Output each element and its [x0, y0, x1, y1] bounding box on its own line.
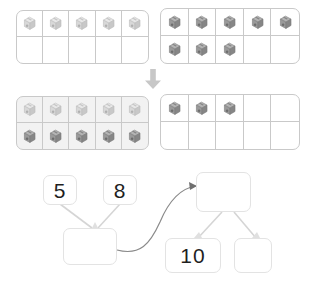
connector-8-to-sum — [98, 204, 120, 228]
ten-frame-cell-empty[interactable] — [96, 37, 122, 63]
ten-frame-cell-filled[interactable] — [189, 9, 217, 36]
ten-frame-cell-filled[interactable] — [69, 123, 95, 149]
ten-frame-cell-filled[interactable] — [122, 123, 148, 149]
ten-frame-cell-empty[interactable] — [244, 122, 272, 149]
ten-frame-cell-filled[interactable] — [43, 11, 69, 37]
number-box-part-remainder[interactable] — [234, 238, 272, 273]
connector-total-to-ten — [198, 212, 222, 238]
unit-cube-icon — [21, 101, 38, 118]
ten-frame-cell-empty[interactable] — [271, 36, 299, 63]
ten-frame-second-addend[interactable] — [160, 8, 300, 64]
unit-cube-icon — [221, 14, 238, 31]
unit-cube-icon — [166, 100, 183, 117]
unit-cube-icon — [73, 15, 90, 32]
ten-frame-cell-empty[interactable] — [69, 37, 95, 63]
ten-frame-cell-filled[interactable] — [96, 123, 122, 149]
ten-frame-cell-filled[interactable] — [17, 11, 43, 37]
down-arrow-icon — [141, 68, 165, 90]
unit-cube-icon — [73, 101, 90, 118]
ten-frame-cell-empty[interactable] — [244, 36, 272, 63]
ten-frame-cell-empty[interactable] — [189, 122, 217, 149]
ten-frame-cell-filled[interactable] — [161, 9, 189, 36]
ten-frame-cell-filled[interactable] — [216, 36, 244, 63]
ten-frame-first-addend[interactable] — [16, 10, 149, 64]
unit-cube-icon — [21, 15, 38, 32]
ten-frame-cell-empty[interactable] — [244, 95, 272, 122]
unit-cube-icon — [193, 14, 210, 31]
ten-frame-cell-filled[interactable] — [96, 97, 122, 123]
unit-cube-icon — [126, 101, 143, 118]
ten-frame-cell-filled[interactable] — [244, 9, 272, 36]
ten-frame-cell-filled[interactable] — [216, 9, 244, 36]
unit-cube-icon — [277, 14, 294, 31]
unit-cube-icon — [47, 128, 64, 145]
ten-frame-cell-empty[interactable] — [43, 37, 69, 63]
ten-frame-cell-filled[interactable] — [17, 123, 43, 149]
unit-cube-icon — [47, 101, 64, 118]
unit-cube-icon — [166, 41, 183, 58]
ten-frame-cell-filled[interactable] — [69, 11, 95, 37]
unit-cube-icon — [100, 128, 117, 145]
ten-frame-cell-filled[interactable] — [161, 36, 189, 63]
ten-frame-cell-filled[interactable] — [216, 95, 244, 122]
unit-cube-icon — [126, 128, 143, 145]
number-box-sum-answer[interactable] — [63, 228, 117, 265]
ten-frame-cell-filled[interactable] — [43, 97, 69, 123]
ten-frame-cell-filled[interactable] — [69, 97, 95, 123]
ten-frame-cell-filled[interactable] — [161, 95, 189, 122]
ten-frame-cell-filled[interactable] — [189, 36, 217, 63]
ten-frame-cell-filled[interactable] — [17, 97, 43, 123]
ten-frame-cell-filled[interactable] — [271, 9, 299, 36]
unit-cube-icon — [249, 14, 266, 31]
unit-cube-icon — [193, 41, 210, 58]
unit-cube-icon — [100, 15, 117, 32]
ten-frame-cell-filled[interactable] — [96, 11, 122, 37]
number-box-total-answer[interactable] — [196, 172, 251, 212]
ten-frame-cell-filled[interactable] — [122, 11, 148, 37]
ten-frame-cell-filled[interactable] — [122, 97, 148, 123]
connector-total-to-remainder — [234, 212, 256, 238]
unit-cube-icon — [166, 14, 183, 31]
ten-frame-cell-empty[interactable] — [17, 37, 43, 63]
unit-cube-icon — [126, 15, 143, 32]
ten-frame-cell-empty[interactable] — [271, 95, 299, 122]
connector-5-to-sum — [60, 204, 92, 228]
unit-cube-icon — [100, 101, 117, 118]
worksheet-canvas: 5 8 10 — [0, 0, 310, 294]
ten-frame-completed-ten[interactable] — [16, 96, 149, 150]
ten-frame-cell-empty[interactable] — [216, 122, 244, 149]
unit-cube-icon — [221, 100, 238, 117]
ten-frame-cell-filled[interactable] — [43, 123, 69, 149]
unit-cube-icon — [21, 128, 38, 145]
number-box-addend-5[interactable]: 5 — [43, 175, 77, 205]
number-box-part-ten[interactable]: 10 — [165, 238, 221, 273]
unit-cube-icon — [221, 41, 238, 58]
ten-frame-cell-empty[interactable] — [271, 122, 299, 149]
ten-frame-cell-empty[interactable] — [122, 37, 148, 63]
unit-cube-icon — [193, 100, 210, 117]
unit-cube-icon — [73, 128, 90, 145]
ten-frame-leftover[interactable] — [160, 94, 300, 150]
unit-cube-icon — [47, 15, 64, 32]
number-box-addend-8[interactable]: 8 — [103, 175, 137, 205]
ten-frame-cell-empty[interactable] — [161, 122, 189, 149]
ten-frame-cell-filled[interactable] — [189, 95, 217, 122]
